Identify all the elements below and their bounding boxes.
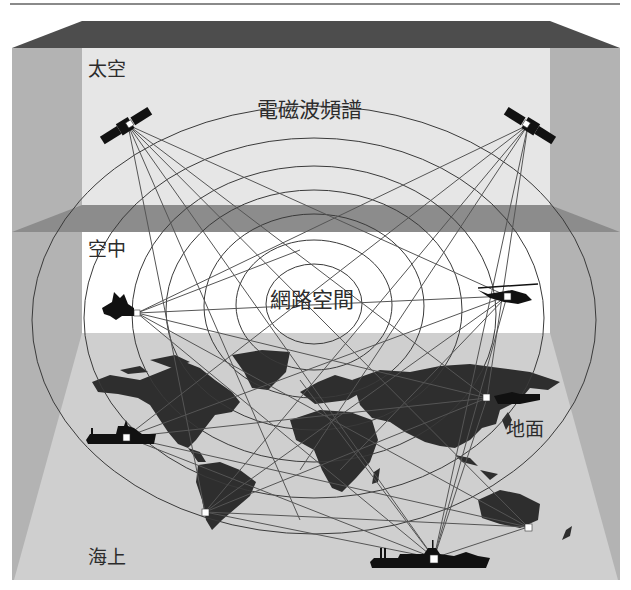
roof [12,21,620,48]
land-layer-label: 地面 [506,420,544,439]
spectrum-label: 電磁波頻譜 [257,100,362,121]
layer-separator [12,205,620,232]
sea-layer-label: 海上 [88,548,126,567]
space-layer-label: 太空 [88,60,126,79]
cyber-label: 網路空間 [270,290,354,311]
air-layer-label: 空中 [88,240,126,259]
south-america-station-icon [202,509,209,516]
australia-station-icon [525,524,532,531]
